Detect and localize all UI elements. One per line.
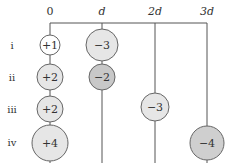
charge-value: +2 <box>42 71 58 84</box>
charge-value: −2 <box>94 71 110 84</box>
charge-circle: +1 <box>40 35 60 55</box>
row-label: iv <box>8 137 17 148</box>
charge-diagram: 0d2d3diiiiiiiv+1−3+2−2+2−3+4−4 <box>0 0 226 163</box>
row-label: i <box>10 40 13 51</box>
charge-value: −3 <box>94 39 110 52</box>
row-label: ii <box>9 72 15 83</box>
charge-circle: −3 <box>86 29 118 61</box>
axis-tick-label: 3d <box>200 5 214 18</box>
charge-value: +1 <box>42 39 58 52</box>
charge-circle: +2 <box>37 64 63 90</box>
charge-value: +2 <box>42 103 58 116</box>
charge-circle: +4 <box>32 125 68 161</box>
charge-circle: −3 <box>141 93 169 121</box>
charge-value: +4 <box>42 137 58 150</box>
axis-tick-label: 2d <box>147 5 162 18</box>
charge-value: −3 <box>147 101 163 114</box>
row-label: iii <box>7 104 17 115</box>
diagram-canvas: 0d2d3diiiiiiiv+1−3+2−2+2−3+4−4 <box>0 0 226 163</box>
charge-value: −4 <box>199 137 215 150</box>
charge-circle: +2 <box>37 96 63 122</box>
axis-tick-label: 0 <box>47 5 54 18</box>
axis-tick-label: d <box>98 5 105 18</box>
charge-circle: −2 <box>89 64 115 90</box>
charge-circle: −4 <box>190 126 224 160</box>
